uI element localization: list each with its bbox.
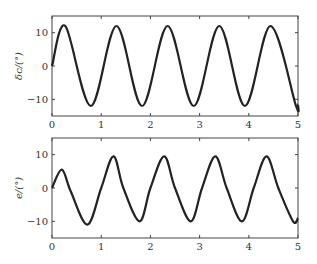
x-tick-label: 2 bbox=[147, 241, 153, 252]
x-tick-label: 5 bbox=[295, 119, 301, 130]
top-series-line bbox=[52, 25, 299, 111]
bottom-series-line bbox=[52, 156, 298, 224]
top-ylabel: δc/(°) bbox=[13, 52, 24, 80]
bottom-ylabel: e/(°) bbox=[13, 177, 24, 199]
x-tick-label: 3 bbox=[196, 241, 202, 252]
x-tick-label: 5 bbox=[295, 241, 301, 252]
y-tick-label: 10 bbox=[35, 149, 48, 160]
y-tick-label: 0 bbox=[42, 61, 48, 72]
x-tick-label: 4 bbox=[246, 119, 252, 130]
bottom-axes: 012345−10010 e/(°) bbox=[13, 138, 301, 252]
x-tick-label: 1 bbox=[98, 119, 104, 130]
x-tick-label: 0 bbox=[49, 241, 55, 252]
y-tick-label: 10 bbox=[35, 27, 48, 38]
x-tick-label: 4 bbox=[246, 241, 252, 252]
top-axes: 012345−10010 δc/(°) bbox=[13, 16, 301, 130]
x-tick-label: 0 bbox=[49, 119, 55, 130]
chart-figure: 012345−10010 δc/(°) 012345−10010 e/(°) bbox=[0, 0, 317, 264]
y-tick-label: 0 bbox=[42, 183, 48, 194]
x-tick-label: 2 bbox=[147, 119, 153, 130]
y-tick-label: −10 bbox=[27, 216, 48, 227]
x-tick-label: 3 bbox=[196, 119, 202, 130]
x-tick-label: 1 bbox=[98, 241, 104, 252]
y-tick-label: −10 bbox=[27, 94, 48, 105]
